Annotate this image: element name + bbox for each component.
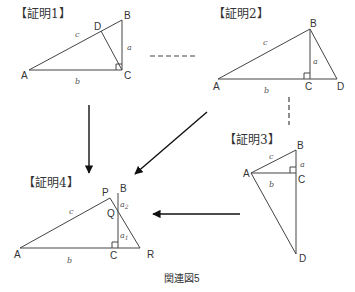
side-a2-label: a2 [120, 200, 129, 210]
point-q-label: Q [107, 208, 115, 219]
side-b-label: b [269, 180, 274, 189]
point-c-label: C [124, 70, 131, 81]
side-a-label: a [313, 57, 318, 66]
proof-2-diagram: 【証明2】 A B C D c a b [213, 7, 344, 95]
related-diagram-5: 【証明1】 A B C D c a b 【証明2】 A B C D c a b … [0, 0, 355, 292]
right-angle-mark [304, 73, 310, 79]
point-a-label: A [243, 168, 250, 179]
right-angle-mark [290, 167, 296, 173]
side-a1-label: a1 [120, 231, 129, 241]
point-c-label: C [110, 250, 117, 261]
proof-2-title: 【証明2】 [213, 7, 269, 21]
side-c-label: c [75, 30, 80, 39]
point-d-label: D [94, 21, 101, 32]
triangle-abd [218, 29, 337, 79]
triangle-abd [251, 150, 296, 254]
point-a-label: A [21, 70, 28, 81]
point-c-label: C [305, 81, 312, 92]
point-r-label: R [147, 249, 154, 260]
proof-4-diagram: 【証明4】 A B C P Q R c b a2 a1 [14, 176, 154, 265]
proof-3-diagram: 【証明3】 A B C D c a b [224, 133, 306, 264]
side-c-label: c [269, 152, 274, 161]
side-c-label: c [69, 207, 74, 216]
side-b-label: b [264, 86, 269, 95]
point-p-label: P [102, 187, 109, 198]
side-b-label: b [75, 77, 80, 86]
side-c-label: c [263, 38, 268, 47]
figure-caption: 関連図5 [164, 272, 200, 284]
point-b-label: B [124, 10, 131, 21]
point-c-label: C [298, 174, 305, 185]
point-b-label: B [297, 140, 304, 151]
proof-1-diagram: 【証明1】 A B C D c a b [15, 7, 132, 86]
segment-ap [20, 198, 110, 248]
side-b-label: b [67, 256, 72, 265]
proof-4-title: 【証明4】 [23, 176, 79, 190]
arrow-proof2-to-proof4 [135, 112, 207, 174]
point-b-label: B [120, 183, 127, 194]
side-a-label: a [127, 43, 132, 52]
proof-1-title: 【証明1】 [15, 7, 71, 21]
right-angle-mark [112, 242, 118, 248]
proof-3-title: 【証明3】 [224, 133, 280, 147]
point-a-label: A [14, 249, 21, 260]
point-a-label: A [213, 81, 220, 92]
point-d-label: D [337, 81, 344, 92]
point-b-label: B [310, 18, 317, 29]
point-d-label: D [299, 253, 306, 264]
side-a-label: a [300, 160, 305, 169]
